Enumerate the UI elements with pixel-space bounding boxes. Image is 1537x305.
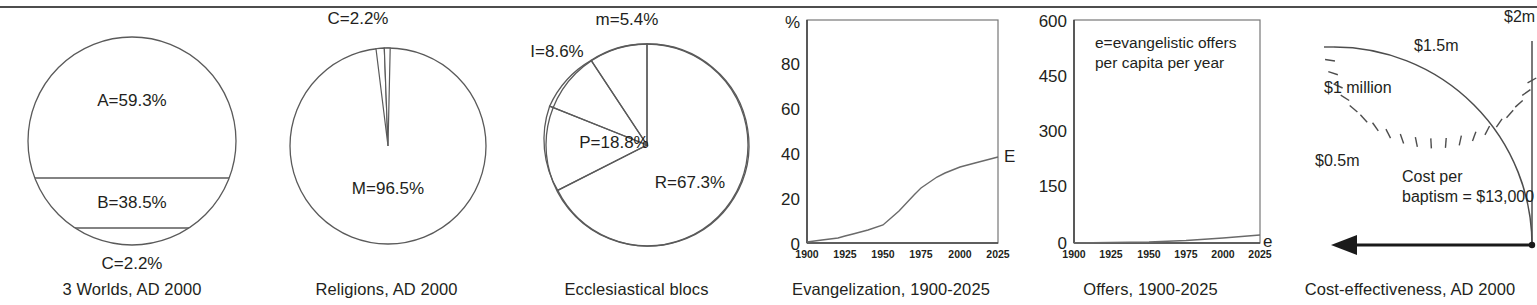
chart-religions: C=2.2% M=96.5% (264, 0, 509, 280)
y-tick-label-150: 150 (1039, 177, 1067, 196)
y-tick-label-60: 60 (781, 100, 800, 119)
dial-arc (1334, 47, 1532, 245)
x-tick-label-1900: 1900 (795, 248, 819, 260)
caption-religions: Religions, AD 2000 (264, 280, 509, 299)
figure-root: A=59.3% B=38.5% C=2.2% 3 Worlds, AD 2000… (0, 0, 1537, 305)
x-tick-label-1925: 1925 (833, 248, 857, 260)
slice-label-c: C=2.2% (328, 9, 389, 28)
pie-outline (28, 37, 236, 245)
x-tick-label-2000: 2000 (948, 248, 972, 260)
chart-cost-effectiveness: $0.5m $1 million $1.5m $2m Cost per bapt… (1283, 0, 1537, 280)
y-tick-label-40: 40 (781, 145, 800, 164)
y-tick-label-600: 600 (1039, 12, 1067, 31)
series-end-label-e: e (1263, 232, 1272, 251)
panel-offers: 600 450 300 150 0 1900 1925 1950 1975 20… (1018, 0, 1283, 305)
plot-frame (807, 20, 998, 243)
dial-label-2m: $2m (1504, 8, 1535, 25)
annotation-line-1: e=evangelistic offers (1095, 34, 1237, 51)
annotation-line-2: per capita per year (1095, 54, 1224, 71)
y-tick-label-300: 300 (1039, 122, 1067, 141)
chart-three-worlds: A=59.3% B=38.5% C=2.2% (0, 0, 264, 280)
slice-label-c: C=2.2% (102, 254, 163, 273)
dial-label-1-5m: $1.5m (1414, 37, 1458, 54)
dial-note-line-2: baptism = $13,000 (1402, 188, 1534, 205)
y-tick-label-450: 450 (1039, 67, 1067, 86)
x-tick-label-1950: 1950 (871, 248, 895, 260)
slice-label-m: M=96.5% (352, 179, 424, 198)
caption-three-worlds: 3 Worlds, AD 2000 (0, 280, 264, 299)
x-tick-label-1925: 1925 (1099, 248, 1123, 260)
chart-offers: 600 450 300 150 0 1900 1925 1950 1975 20… (1018, 0, 1283, 280)
x-tick-label-1950: 1950 (1137, 248, 1161, 260)
caption-evangelization: Evangelization, 1900-2025 (764, 280, 1018, 299)
dial-note-line-1: Cost per (1402, 168, 1463, 185)
chart-evangelization: % 80 60 40 20 0 1900 1925 1950 1975 2000… (764, 0, 1018, 280)
y-tick-label-20: 20 (781, 190, 800, 209)
panel-religions: C=2.2% M=96.5% Religions, AD 2000 (264, 0, 509, 305)
slice-label-p: P=18.8% (579, 133, 648, 152)
y-axis-unit-label: % (785, 13, 800, 32)
dial-label-0-5m: $0.5m (1315, 152, 1359, 169)
x-tick-label-1900: 1900 (1062, 248, 1086, 260)
slice-label-i: I=8.6% (530, 42, 583, 61)
dial-label-1-million: $1 million (1324, 79, 1392, 96)
x-tick-label-2025: 2025 (986, 248, 1010, 260)
series-end-label-E: E (1004, 147, 1015, 166)
panel-cost-effectiveness: $0.5m $1 million $1.5m $2m Cost per bapt… (1283, 0, 1537, 305)
caption-ecclesiastical-blocs: Ecclesiastical blocs (509, 280, 764, 299)
chart-ecclesiastical-blocs: m=5.4% I=8.6% P=18.8% R=67.3% (509, 0, 764, 280)
panel-three-worlds: A=59.3% B=38.5% C=2.2% 3 Worlds, AD 2000 (0, 0, 264, 305)
y-tick-label-80: 80 (781, 55, 800, 74)
caption-cost-effectiveness: Cost-effectiveness, AD 2000 (1283, 280, 1537, 299)
panel-ecclesiastical-blocs: m=5.4% I=8.6% P=18.8% R=67.3% Ecclesiast… (509, 0, 764, 305)
x-tick-label-1975: 1975 (909, 248, 933, 260)
slice-label-r: R=67.3% (655, 173, 725, 192)
dial-tick-marks (1324, 47, 1536, 148)
slice-label-m: m=5.4% (596, 10, 659, 29)
caption-offers: Offers, 1900-2025 (1018, 280, 1283, 299)
x-tick-label-1975: 1975 (1174, 248, 1198, 260)
x-tick-label-2000: 2000 (1211, 248, 1235, 260)
panel-evangelization: % 80 60 40 20 0 1900 1925 1950 1975 2000… (764, 0, 1018, 305)
dial-needle (1331, 235, 1535, 255)
slice-label-b: B=38.5% (97, 193, 166, 212)
slice-label-a: A=59.3% (97, 91, 166, 110)
